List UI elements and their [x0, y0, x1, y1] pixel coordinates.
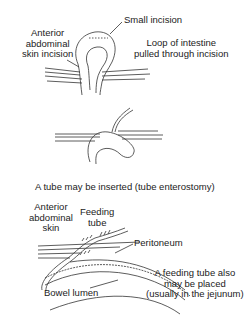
label-line: Anterior — [29, 202, 73, 213]
label-line: (usually in the jejunum) — [146, 289, 244, 300]
caption-feeding-tube: A feeding tube also may be placed (usual… — [146, 268, 244, 300]
label-line: pulled through incision — [134, 49, 229, 60]
label-loop-of-intestine: Loop of intestine pulled through incisio… — [134, 38, 229, 59]
label-line: tube — [80, 218, 114, 229]
label-line: Feeding — [80, 207, 114, 218]
label-line: A feeding tube also — [146, 268, 244, 279]
label-anterior-abdominal-skin: Anterior abdominal skin — [29, 202, 73, 234]
feeding-tube — [42, 228, 128, 291]
label-peritoneum: Peritoneum — [134, 238, 183, 249]
label-small-incision: Small incision — [124, 15, 182, 26]
label-line: Anterior — [22, 28, 73, 39]
abdominal-wall-layers-1 — [45, 68, 150, 83]
label-line: Loop of intestine — [134, 38, 229, 49]
label-feeding-tube: Feeding tube — [80, 207, 114, 228]
intestine-loop — [76, 32, 115, 95]
label-bowel-lumen: Bowel lumen — [44, 288, 98, 299]
label-anterior-abdominal-skin-incision: Anterior abdominal skin incision — [22, 28, 73, 60]
label-line: skin — [29, 223, 73, 234]
label-line: skin incision — [22, 49, 73, 60]
caption-tube-enterostomy: A tube may be inserted (tube enterostomy… — [35, 182, 215, 193]
intestine-with-tube — [88, 108, 134, 164]
